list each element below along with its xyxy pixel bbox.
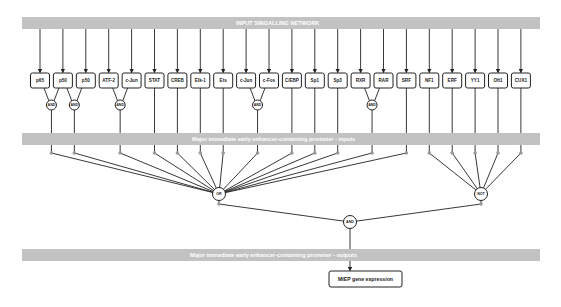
wires-layer: [40, 29, 523, 271]
node-label-rxr: RXR: [356, 78, 366, 83]
and-gate-label: AND: [254, 103, 262, 107]
signalling-network-diagram: INPUT SINGALLING NETWORK Major immediate…: [0, 0, 561, 307]
transcription-factor-nodes: p65p50p50ATF-2c-JunSTATCREBElk-1Etsc-Jun…: [31, 73, 531, 88]
node-label-nf1: NF1: [425, 78, 434, 83]
connector-dot: [50, 151, 54, 155]
not-gate-label: NOT: [477, 192, 485, 196]
gate-input-wire: [77, 88, 82, 101]
node-label-erf: ERF: [448, 78, 457, 83]
node-label-p50a: p50: [59, 78, 67, 83]
final-and-gate-label: AND: [346, 220, 354, 224]
final-input-wire: [350, 204, 481, 222]
gate-input-wire: [67, 88, 72, 101]
promoter-outputs-bar-label: Major immediate early enhancer-containin…: [190, 252, 357, 258]
connector-dot: [428, 151, 432, 155]
input-network-bar-label: INPUT SINGALLING NETWORK: [236, 20, 319, 26]
gate-input-wire: [123, 88, 128, 101]
node-label-oft1: Oft1: [493, 78, 503, 83]
or-gate-label: OR: [216, 192, 222, 196]
connector-dot: [118, 151, 122, 155]
node-label-yy1: YY1: [471, 78, 480, 83]
node-label-ets: Ets: [220, 78, 228, 83]
or-input-wire: [219, 153, 372, 194]
output-label: MIEP gene expression: [338, 276, 393, 282]
or-input-wire: [74, 153, 219, 194]
connector-dot: [176, 151, 180, 155]
and-gate-label: AND: [48, 103, 56, 107]
not-input-wire: [452, 153, 481, 194]
node-label-cjun2: c-Jun: [240, 78, 252, 83]
connector-dot: [405, 151, 409, 155]
node-label-stat: STAT: [149, 78, 161, 83]
connector-dot: [153, 151, 157, 155]
connector-dot: [450, 151, 454, 155]
connector-dot: [313, 151, 317, 155]
connector-dot: [73, 151, 77, 155]
gate-input-wire: [54, 88, 59, 101]
gate-input-wire: [260, 88, 265, 101]
and-gate-label: AND: [368, 103, 376, 107]
or-input-wire: [219, 153, 258, 194]
node-label-p50b: p50: [82, 78, 90, 83]
node-label-creb: CREB: [171, 78, 185, 83]
node-label-srf: SRF: [402, 78, 411, 83]
gate-input-wire: [375, 88, 380, 101]
connector-dot: [496, 151, 500, 155]
and-gate-label: AND: [116, 103, 124, 107]
gate-input-wire: [250, 88, 255, 101]
node-label-rar: RAR: [379, 78, 390, 83]
connector-dot: [519, 151, 523, 155]
connector-dot: [473, 151, 477, 155]
or-input-wire: [219, 153, 292, 194]
node-label-cfos: c-Fos: [263, 78, 276, 83]
node-label-elk1: Elk-1: [195, 78, 206, 83]
and-gate-label: AND: [70, 103, 78, 107]
connector-dot: [199, 151, 203, 155]
node-label-cux1: CUX1: [515, 78, 528, 83]
gate-input-wire: [44, 88, 49, 101]
not-input-wire: [481, 153, 521, 194]
node-label-atf2: ATF-2: [102, 78, 115, 83]
or-input-wire: [219, 153, 338, 194]
connector-dot: [217, 202, 221, 206]
connector-dot: [256, 151, 260, 155]
node-label-cjun1: c-Jun: [125, 78, 137, 83]
promoter-inputs-bar-label: Major immediate early enhancer-containin…: [192, 136, 355, 142]
or-input-wire: [219, 153, 315, 194]
connector-dot: [336, 151, 340, 155]
connector-dot: [370, 151, 374, 155]
not-input-wire: [429, 153, 481, 194]
node-label-sp3: Sp3: [333, 78, 342, 83]
gate-input-wire: [113, 88, 118, 101]
node-label-p65: p65: [36, 78, 44, 83]
node-label-sp1: Sp1: [311, 78, 320, 83]
connector-dot: [221, 151, 225, 155]
connector-dot: [290, 151, 294, 155]
gate-input-wire: [365, 88, 370, 101]
final-input-wire: [219, 204, 350, 222]
or-input-wire: [219, 153, 406, 194]
node-label-cebp: C/EBP: [285, 78, 299, 83]
connector-dot: [479, 202, 483, 206]
